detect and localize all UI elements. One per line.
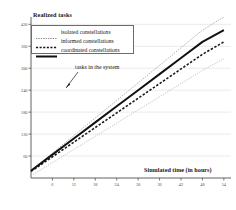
- legend-swatch-isolated: [36, 28, 57, 35]
- svg-text:54: 54: [222, 182, 227, 187]
- svg-text:48: 48: [200, 182, 204, 187]
- svg-text:60: 60: [23, 154, 27, 159]
- legend-swatch-informed: [36, 37, 57, 44]
- svg-text:300: 300: [21, 66, 27, 71]
- annotation-arrow: [66, 72, 78, 88]
- legend-label-coordinated: coordinated constellations: [61, 47, 120, 53]
- legend-item-isolated: isolated constellations: [36, 27, 111, 36]
- svg-text:42: 42: [179, 182, 183, 187]
- legend-label-isolated: isolated constellations: [61, 29, 111, 35]
- svg-text:12: 12: [72, 182, 76, 187]
- svg-text:360: 360: [21, 44, 27, 49]
- chart-container: Realized tasks 60120180240300360420 6121…: [0, 0, 236, 210]
- annotation-tasks-in-system: tasks in the system: [75, 64, 119, 70]
- y-axis-ticks: 60120180240300360420: [21, 22, 31, 159]
- svg-text:240: 240: [21, 88, 27, 93]
- svg-text:420: 420: [21, 22, 27, 27]
- svg-text:180: 180: [21, 110, 27, 115]
- x-axis-ticks: 61218243036424854: [51, 178, 227, 187]
- svg-text:36: 36: [157, 182, 162, 187]
- svg-text:24: 24: [115, 182, 120, 187]
- legend-item-coordinated: coordinated constellations: [36, 45, 120, 54]
- svg-text:120: 120: [21, 132, 27, 137]
- svg-text:18: 18: [93, 182, 97, 187]
- legend-item-informed: informed constellations: [36, 36, 114, 45]
- chart-legend: isolated constellations informed constel…: [31, 25, 134, 54]
- svg-text:6: 6: [51, 182, 54, 187]
- legend-label-informed: informed constellations: [61, 38, 114, 44]
- svg-text:30: 30: [136, 182, 140, 187]
- legend-swatch-coordinated: [36, 46, 57, 53]
- x-axis-label: Simulated time (in hours): [144, 166, 212, 173]
